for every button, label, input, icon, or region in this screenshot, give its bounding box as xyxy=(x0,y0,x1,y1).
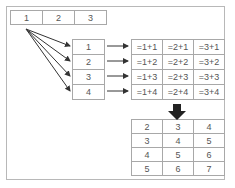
down-arrow-icon xyxy=(168,104,186,120)
fan-arrow-icon xyxy=(26,29,70,91)
arrows-layer xyxy=(0,0,235,188)
right-arrow-icon xyxy=(107,46,128,91)
